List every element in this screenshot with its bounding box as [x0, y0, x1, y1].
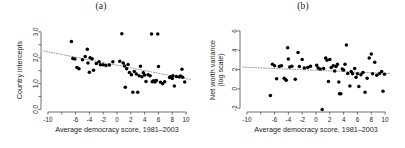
x-tick-label: 0: [115, 116, 119, 123]
data-point: [120, 32, 124, 36]
y-tick-label: 2.0: [33, 53, 40, 62]
data-point: [131, 91, 135, 95]
data-point: [342, 68, 346, 72]
data-point: [356, 72, 360, 76]
x-tick-label: -2: [100, 116, 106, 123]
data-point: [300, 58, 304, 62]
data-point: [123, 64, 127, 68]
data-point: [139, 65, 143, 69]
data-point: [361, 71, 365, 75]
data-point: [339, 92, 343, 96]
data-point: [373, 61, 377, 65]
data-point: [315, 63, 319, 67]
figure-container: (a) 0.01.02.03.0-10-6-4-20246810Average …: [0, 0, 405, 148]
x-tick-label: -2: [299, 116, 305, 123]
data-point: [381, 89, 385, 93]
data-point: [108, 63, 112, 67]
data-point: [124, 85, 128, 89]
trend-line: [44, 51, 190, 79]
data-point: [333, 69, 337, 73]
data-point: [367, 56, 371, 60]
x-tick-label: -6: [272, 116, 278, 123]
data-point: [383, 73, 387, 77]
data-point: [92, 68, 96, 72]
data-point: [77, 67, 81, 71]
data-point: [273, 64, 277, 68]
x-tick-label: 4: [143, 116, 147, 123]
data-point: [118, 60, 122, 64]
data-point: [155, 79, 159, 83]
data-point: [371, 72, 375, 76]
x-tick-label: -10: [43, 116, 53, 123]
data-point: [345, 43, 349, 47]
data-point: [280, 64, 284, 68]
data-point: [150, 32, 154, 36]
data-point: [318, 67, 322, 71]
data-point: [81, 58, 85, 62]
data-point: [353, 67, 357, 71]
y-tick-label: 0.0: [33, 105, 40, 114]
panel-b: (b) -20246-10-6-4-20246810Average democr…: [202, 0, 404, 148]
data-point: [183, 80, 187, 84]
data-point: [70, 40, 74, 44]
y-tick-label: 6: [232, 29, 239, 33]
data-point: [156, 32, 160, 36]
x-axis-title: Average democracy score, 1981–2003: [55, 125, 178, 134]
data-point: [286, 46, 290, 50]
data-point: [296, 51, 300, 55]
x-tick-label: 8: [171, 116, 175, 123]
data-point: [121, 61, 125, 64]
data-point: [380, 70, 384, 74]
data-point: [83, 55, 87, 59]
data-point: [181, 76, 185, 80]
x-tick-label: 6: [356, 116, 360, 123]
data-point: [348, 84, 352, 88]
data-point: [322, 67, 326, 71]
x-tick-label: 10: [382, 116, 390, 123]
data-point: [126, 63, 130, 67]
data-point: [173, 84, 177, 88]
trend-line: [243, 67, 389, 73]
data-point: [111, 60, 115, 64]
data-point: [365, 76, 369, 80]
data-point: [148, 74, 152, 78]
data-point: [171, 74, 175, 78]
y-tick-label: 1.0: [33, 79, 40, 88]
data-point: [298, 65, 302, 69]
x-tick-label: -10: [242, 116, 252, 123]
data-point: [320, 108, 324, 112]
data-point: [351, 72, 355, 76]
data-point: [337, 80, 341, 84]
data-point: [180, 68, 184, 72]
scatter-plot-a: 0.01.02.03.0-10-6-4-20246810Average demo…: [0, 0, 202, 148]
data-point: [136, 91, 140, 95]
y-tick-label: 2: [232, 67, 239, 71]
panel-a: (a) 0.01.02.03.0-10-6-4-20246810Average …: [0, 0, 202, 148]
x-tick-label: 8: [370, 116, 374, 123]
data-point: [269, 94, 273, 98]
data-point: [370, 52, 374, 56]
x-tick-label: 4: [342, 116, 346, 123]
x-tick-label: -4: [286, 116, 292, 123]
x-tick-label: 6: [157, 116, 161, 123]
data-point: [290, 64, 294, 68]
x-axis-title: Average democracy score, 1981–2003: [254, 125, 377, 134]
data-point: [354, 75, 358, 79]
data-point: [346, 72, 350, 76]
data-point: [88, 70, 92, 74]
x-tick-label: -6: [73, 116, 79, 123]
y-tick-label: 3.0: [33, 27, 40, 36]
y-axis-title: Country intercepts: [15, 40, 24, 99]
y-tick-label: -2: [232, 105, 239, 111]
data-point: [125, 67, 129, 71]
data-point: [363, 90, 367, 94]
data-point: [104, 64, 108, 68]
x-tick-label: 0: [314, 116, 318, 123]
data-point: [73, 57, 77, 61]
data-point: [303, 66, 307, 70]
data-point: [90, 57, 94, 61]
data-point: [285, 78, 289, 82]
data-point: [309, 64, 313, 68]
data-point: [327, 80, 331, 84]
y-tick-label: 4: [232, 48, 239, 52]
